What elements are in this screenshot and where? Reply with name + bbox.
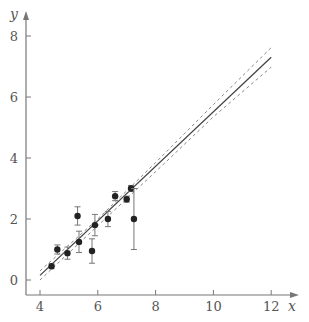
data-point [48,263,54,269]
x-tick-label: 12 [263,299,280,314]
point-marker [131,216,137,222]
point-marker [92,222,98,228]
point-marker [54,246,60,252]
point-marker [89,248,95,254]
confidence-band-line [40,67,271,280]
point-marker [105,216,111,222]
y-tick-label: 2 [10,212,18,227]
data-point [124,196,130,202]
data-point [92,214,98,235]
axes [23,11,299,298]
y-axis-label: y [9,6,19,22]
x-tick-label: 4 [36,299,44,314]
x-tick-label: 6 [94,299,102,314]
x-tick-label: 10 [205,299,222,314]
point-marker [74,213,80,219]
point-marker [76,239,82,245]
data-point [112,192,118,201]
data-point [64,247,70,259]
data-point [89,239,95,263]
x-tick-label: 8 [151,299,159,314]
y-tick-label: 6 [10,90,18,105]
fit-line [40,57,271,275]
y-tick-label: 4 [10,151,18,166]
regression-line [40,57,271,275]
x-axis-label: x [288,298,296,314]
y-axis-arrow-icon [23,11,29,20]
confidence-bands [40,48,271,280]
y-tick-label: 8 [10,29,18,44]
y-tick-label: 0 [10,273,18,288]
data-point [74,207,80,225]
point-marker [124,196,130,202]
data-point [131,189,137,250]
point-marker [112,193,118,199]
point-marker [64,250,70,256]
confidence-band-line [40,48,271,271]
data-points [48,185,137,269]
point-marker [48,263,54,269]
scatter-chart: 024684681012xy [0,0,309,322]
